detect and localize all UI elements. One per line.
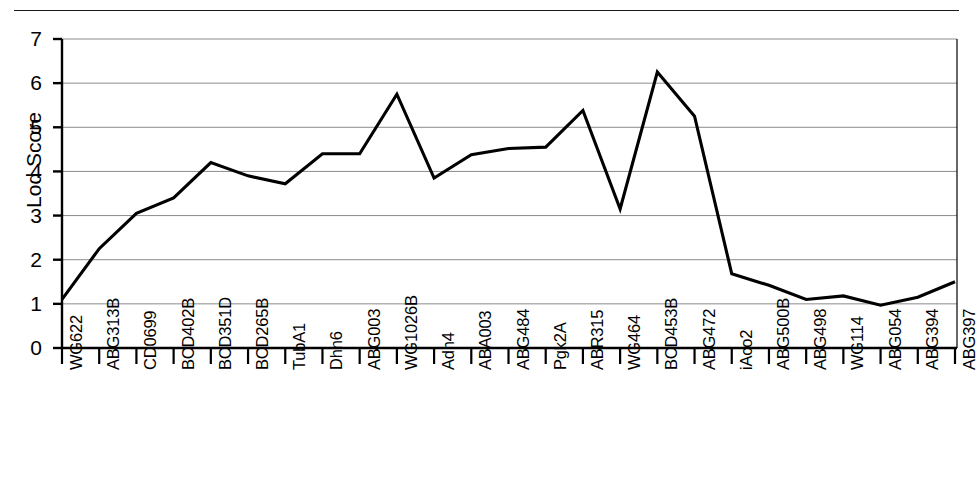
x-tick-label: CD0699 — [142, 311, 159, 370]
x-tick-label: BCD265B — [254, 298, 271, 370]
x-tick-label: ABG498 — [812, 309, 829, 370]
x-tick-label: WG464 — [626, 315, 643, 370]
x-tick-label: ABG472 — [701, 309, 718, 370]
x-tick-label: BCD453B — [663, 298, 680, 370]
x-tick-label: BCD402B — [180, 298, 197, 370]
x-tick-label: Pgk2A — [552, 322, 569, 370]
x-tick-label: ABG394 — [924, 309, 941, 370]
x-tick-label: ABG054 — [887, 309, 904, 370]
x-tick-label: Adh4 — [440, 332, 457, 370]
x-tick-label: ABG313B — [105, 298, 122, 370]
x-tick-label: WG114 — [849, 316, 866, 370]
x-tick-label: ABR315 — [589, 310, 606, 370]
x-tick-label: Dhn6 — [328, 331, 345, 370]
x-tick-label: ABA003 — [477, 311, 494, 370]
x-tick-label: BCD351D — [217, 297, 234, 370]
x-tick-label: ABG484 — [515, 309, 532, 370]
x-tick-label: ABG397 — [961, 309, 978, 370]
x-tick-label: WG1026B — [403, 295, 420, 370]
x-tick-label: ABG500B — [775, 298, 792, 370]
x-tick-label: TubA1 — [291, 323, 308, 370]
x-tick-label: iAco2 — [738, 330, 755, 370]
data-line — [62, 72, 955, 305]
x-tick-label: ABG003 — [366, 309, 383, 370]
x-tick-label: WG622 — [68, 315, 85, 370]
